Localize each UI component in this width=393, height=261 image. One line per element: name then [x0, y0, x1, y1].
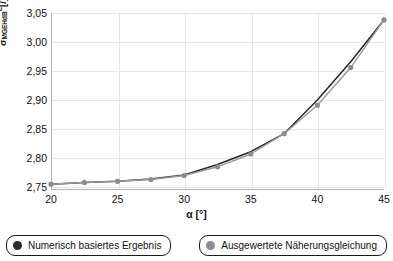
y-axis-title-subscript: MGEHdB [1, 11, 8, 39]
gridline-horizontal [52, 42, 384, 43]
gridline-horizontal [52, 129, 384, 130]
gridline-horizontal [52, 71, 384, 72]
x-axis-tick-label: 45 [378, 193, 390, 205]
gridline-horizontal [52, 100, 384, 101]
legend-marker-icon [206, 241, 215, 250]
chart-legend: Numerisch basiertes ErgebnisAusgewertete… [0, 232, 393, 259]
gridline-vertical [252, 13, 253, 189]
plot-area [51, 13, 384, 190]
y-axis-title-superscript: E [0, 7, 3, 11]
x-axis-tick-label: 35 [245, 193, 257, 205]
chart-figure: 2,752,802,852,902,953,003,05 20253035404… [0, 0, 393, 261]
gridline-vertical [385, 13, 386, 189]
x-axis-tick-label: 30 [178, 193, 190, 205]
gridline-vertical [185, 13, 186, 189]
gridline-horizontal [52, 158, 384, 159]
x-axis-tick-label: 20 [45, 193, 57, 205]
gridline-vertical [318, 13, 319, 189]
x-axis-title: α [°] [0, 208, 393, 220]
y-axis-title: σMGEHdBE[/] [0, 0, 8, 46]
legend-item[interactable]: Ausgewertete Näherungsgleichung [199, 235, 387, 256]
y-axis-tick-label: 2,90 [0, 94, 47, 106]
legend-item[interactable]: Numerisch basiertes Ergebnis [6, 235, 171, 256]
y-axis-tick-label: 2,85 [0, 123, 47, 135]
legend-item-label: Numerisch basiertes Ergebnis [28, 241, 161, 251]
gridline-vertical [119, 13, 120, 189]
legend-item-label: Ausgewertete Näherungsgleichung [221, 241, 377, 251]
x-axis-tick-label: 25 [112, 193, 124, 205]
gridline-horizontal [52, 13, 384, 14]
y-axis-title-unit: [/] [0, 0, 8, 7]
y-axis-tick-label: 2,75 [0, 181, 47, 193]
y-axis-tick-label: 2,95 [0, 65, 47, 77]
legend-marker-icon [13, 241, 22, 250]
y-axis-tick-label: 2,80 [0, 152, 47, 164]
y-axis-title-symbol: σ [0, 40, 8, 47]
gridline-horizontal [52, 187, 384, 188]
x-axis-tick-label: 40 [312, 193, 324, 205]
